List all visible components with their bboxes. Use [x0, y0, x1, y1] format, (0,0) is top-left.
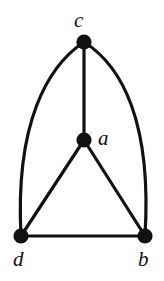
graph-canvas: [0, 0, 164, 281]
vertex-c: [76, 34, 91, 49]
vertex-d: [13, 228, 28, 243]
graph-diagram: c a d b: [0, 0, 164, 281]
vertex-label-c: c: [74, 10, 83, 31]
vertex-a: [76, 132, 91, 147]
edge-a-d: [21, 140, 84, 236]
vertex-label-a: a: [98, 128, 109, 149]
edge-c-b: [84, 42, 146, 236]
edge-c-d: [20, 42, 84, 236]
vertex-label-b: b: [138, 249, 149, 270]
edge-a-b: [84, 140, 145, 236]
vertex-label-d: d: [13, 249, 24, 270]
vertex-b: [137, 228, 152, 243]
